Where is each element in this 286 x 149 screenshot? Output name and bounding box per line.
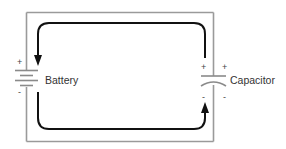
battery-negative-sign: - [18, 88, 21, 97]
capacitor-negative-sign-right: - [223, 93, 226, 102]
current-arrow-bottom [38, 92, 209, 129]
current-arrow-top [34, 23, 205, 66]
battery-positive-sign: + [17, 58, 22, 67]
arrow-down-icon [34, 55, 42, 66]
capacitor-negative-sign-left: - [202, 93, 205, 102]
capacitor-positive-sign-left: + [201, 63, 206, 72]
capacitor-label: Capacitor [230, 75, 275, 86]
arrow-up-icon [201, 102, 209, 113]
battery-symbol [15, 71, 38, 86]
battery-label: Battery [45, 75, 78, 86]
capacitor-symbol [201, 76, 226, 86]
capacitor-positive-sign-right: + [222, 63, 227, 72]
